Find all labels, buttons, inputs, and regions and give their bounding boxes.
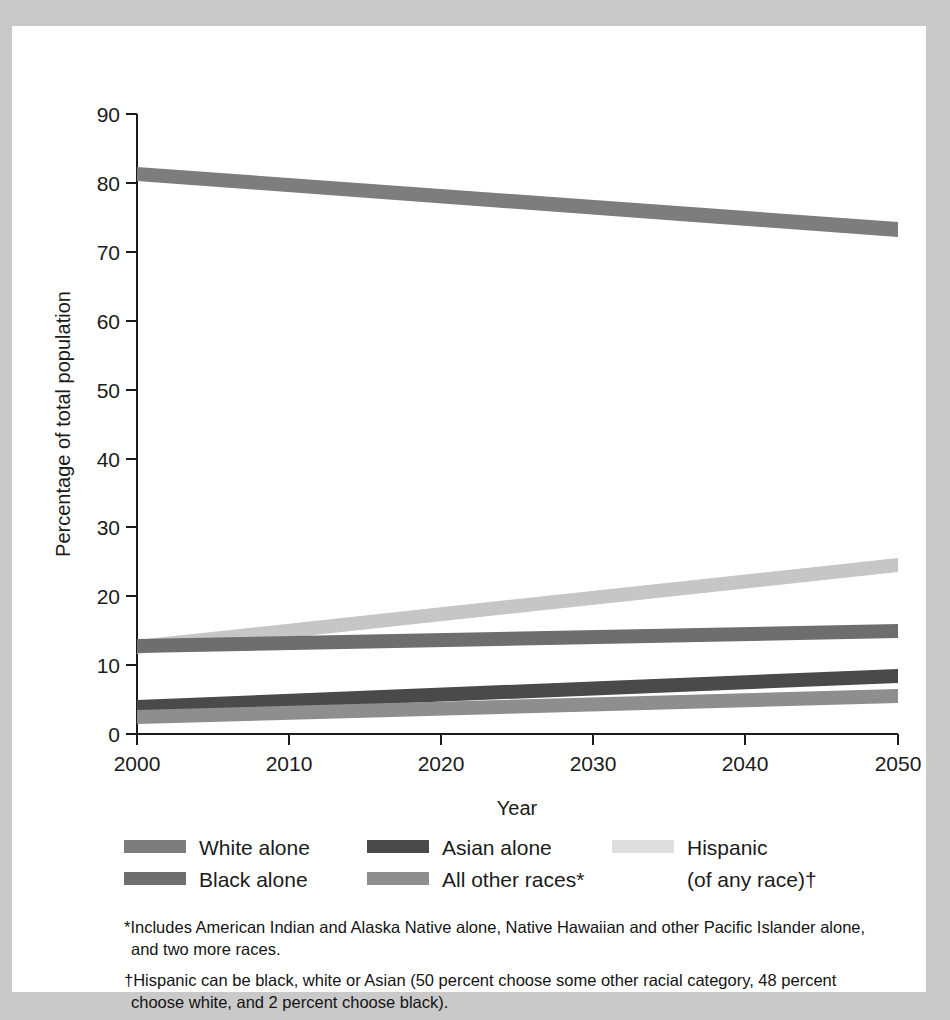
legend-swatch-asian-alone-icon bbox=[367, 840, 429, 853]
legend-label-all-other-races: All other races* bbox=[442, 864, 584, 895]
y-tick-label-40: 40 bbox=[97, 448, 120, 471]
legend-label-hispanic-line2: (of any race)† bbox=[687, 864, 817, 895]
series-band-white-alone bbox=[137, 167, 898, 237]
legend-swatch-white-alone-icon bbox=[124, 840, 186, 853]
legend-item-hispanic-second-line: (of any race)† bbox=[612, 864, 817, 896]
legend-column-2: Asian alone All other races* bbox=[367, 832, 584, 896]
y-tick-label-0: 0 bbox=[108, 723, 120, 746]
legend-column-1: White alone Black alone bbox=[124, 832, 310, 896]
legend-label-hispanic-line2-text: (of any race) bbox=[687, 868, 805, 891]
chart-plot-area: 90 80 70 60 50 40 30 20 10 0 bbox=[12, 26, 926, 816]
footnote-asterisk-line2: and two more races. bbox=[124, 938, 914, 960]
legend-label-black-alone: Black alone bbox=[199, 864, 308, 895]
y-tick-label-30: 30 bbox=[97, 516, 120, 539]
x-tick-label-2000: 2000 bbox=[114, 752, 161, 775]
x-tick-label-2050: 2050 bbox=[875, 752, 922, 775]
legend-swatch-black-alone-icon bbox=[124, 872, 186, 885]
legend-item-hispanic[interactable]: Hispanic bbox=[612, 832, 817, 864]
footnote-asterisk-line1: Includes American Indian and Alaska Nati… bbox=[130, 918, 865, 936]
x-tick-label-2010: 2010 bbox=[266, 752, 313, 775]
y-tick-label-80: 80 bbox=[97, 172, 120, 195]
y-tick-label-70: 70 bbox=[97, 241, 120, 264]
y-tick-label-60: 60 bbox=[97, 310, 120, 333]
legend-label-hispanic: Hispanic bbox=[687, 832, 768, 863]
y-axis-title: Percentage of total population bbox=[52, 291, 74, 557]
y-tick-label-50: 50 bbox=[97, 379, 120, 402]
legend-column-3: Hispanic (of any race)† bbox=[612, 832, 817, 896]
legend-swatch-hispanic-icon bbox=[612, 840, 674, 853]
x-tick-label-2020: 2020 bbox=[418, 752, 465, 775]
footnote-dagger-line2: choose white, and 2 percent choose black… bbox=[124, 991, 914, 1013]
legend-item-all-other-races[interactable]: All other races* bbox=[367, 864, 584, 896]
x-tick-label-2030: 2030 bbox=[570, 752, 617, 775]
y-tick-label-10: 10 bbox=[97, 654, 120, 677]
y-tick-label-20: 20 bbox=[97, 585, 120, 608]
footnote-asterisk: *Includes American Indian and Alaska Nat… bbox=[124, 916, 914, 960]
y-axis-ticks bbox=[126, 114, 137, 734]
x-tick-label-2040: 2040 bbox=[722, 752, 769, 775]
population-projection-line-chart: 90 80 70 60 50 40 30 20 10 0 bbox=[12, 26, 926, 816]
y-tick-label-90: 90 bbox=[97, 103, 120, 126]
figure-card: 90 80 70 60 50 40 30 20 10 0 bbox=[12, 26, 926, 992]
legend-label-asian-alone: Asian alone bbox=[442, 832, 552, 863]
x-axis-title: Year bbox=[497, 797, 538, 816]
legend-item-black-alone[interactable]: Black alone bbox=[124, 864, 310, 896]
legend-item-white-alone[interactable]: White alone bbox=[124, 832, 310, 864]
chart-footnotes: *Includes American Indian and Alaska Nat… bbox=[124, 916, 914, 1020]
figure-page: 90 80 70 60 50 40 30 20 10 0 bbox=[0, 0, 950, 1020]
footnote-dagger-marker: † bbox=[124, 971, 133, 989]
x-axis-ticks bbox=[137, 734, 898, 745]
footnote-dagger-line1: Hispanic can be black, white or Asian (5… bbox=[133, 971, 836, 989]
legend-label-white-alone: White alone bbox=[199, 832, 310, 863]
footnote-dagger: †Hispanic can be black, white or Asian (… bbox=[124, 969, 914, 1013]
legend-swatch-all-other-races-icon bbox=[367, 872, 429, 885]
legend-dagger-marker: † bbox=[805, 868, 817, 891]
chart-legend: White alone Black alone Asian alone All … bbox=[124, 832, 914, 906]
legend-item-asian-alone[interactable]: Asian alone bbox=[367, 832, 584, 864]
